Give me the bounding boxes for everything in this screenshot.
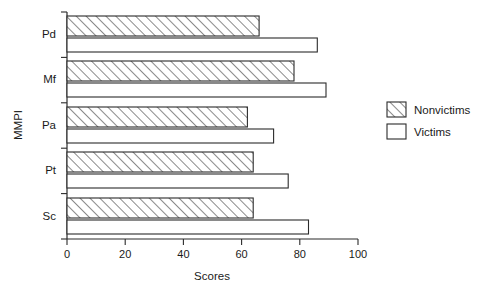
- bar-pa-nonvictims: [67, 107, 247, 127]
- legend-swatch-victims: [387, 124, 406, 139]
- bar-pd-victims: [67, 38, 317, 52]
- x-tick-label-80: 80: [294, 248, 306, 260]
- category-label-pd: Pd: [42, 28, 56, 40]
- legend-label-victims: Victims: [414, 126, 451, 138]
- bar-pt-victims: [67, 174, 288, 188]
- bar-mf-victims: [67, 83, 326, 97]
- bar-pa-victims: [67, 129, 274, 143]
- bar-pt-nonvictims: [67, 152, 253, 172]
- chart-container: Pd Mf Pa Pt Sc 0 20 40 60 80 100 Scores …: [0, 0, 490, 290]
- category-label-sc: Sc: [43, 210, 57, 222]
- bar-group-mf: [67, 61, 326, 97]
- y-axis-title: MMPI: [12, 110, 24, 140]
- x-tick-label-40: 40: [177, 248, 189, 260]
- x-axis-title: Scores: [194, 270, 230, 282]
- x-axis-ticks: [67, 239, 358, 245]
- category-label-pa: Pa: [42, 119, 57, 131]
- bar-sc-nonvictims: [67, 198, 253, 218]
- bar-group-pd: [67, 16, 317, 52]
- legend-swatch-nonvictims: [387, 102, 406, 117]
- bar-group-sc: [67, 198, 309, 234]
- bar-group-pa: [67, 107, 274, 143]
- x-tick-label-0: 0: [64, 248, 70, 260]
- bar-pd-nonvictims: [67, 16, 259, 36]
- legend-label-nonvictims: Nonvictims: [414, 104, 470, 116]
- y-axis-ticks: [61, 12, 67, 239]
- bar-sc-victims: [67, 220, 309, 234]
- x-tick-label-100: 100: [349, 248, 367, 260]
- category-label-pt: Pt: [45, 164, 57, 176]
- bar-group-pt: [67, 152, 288, 188]
- bar-mf-nonvictims: [67, 61, 294, 81]
- legend: Nonvictims Victims: [387, 102, 470, 139]
- x-tick-label-60: 60: [235, 248, 247, 260]
- bar-chart-svg: Pd Mf Pa Pt Sc 0 20 40 60 80 100 Scores …: [0, 0, 490, 290]
- x-tick-label-20: 20: [119, 248, 131, 260]
- category-label-mf: Mf: [43, 73, 57, 85]
